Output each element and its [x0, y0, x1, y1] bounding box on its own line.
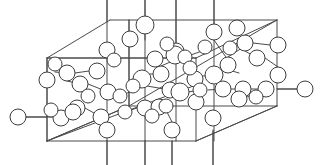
atom-circle	[136, 16, 154, 34]
atom-circle	[39, 72, 55, 88]
atom-circle	[113, 89, 127, 103]
atom-circle	[270, 67, 286, 83]
atom-circle	[107, 53, 121, 67]
atom-circle	[159, 99, 173, 113]
atom-circle	[81, 89, 95, 103]
atom-circle	[122, 31, 138, 47]
atom-circle	[48, 57, 62, 71]
atom-circle	[249, 90, 263, 104]
atom-circle	[126, 79, 140, 93]
atom-circle	[237, 35, 253, 51]
atom-circle	[147, 51, 163, 67]
atom-circle	[89, 63, 105, 79]
atom-circle	[249, 50, 265, 66]
atom-bond	[265, 58, 278, 67]
atom-circle	[160, 37, 174, 51]
atom-circle	[297, 81, 313, 97]
atom-circle	[198, 40, 212, 54]
atom-circle	[223, 41, 237, 55]
atom-bonds	[26, 0, 297, 165]
atom-circle	[118, 105, 132, 119]
atom-circle	[193, 83, 207, 97]
atom-circle	[10, 109, 26, 125]
atom-circle	[65, 104, 81, 120]
atom-nodes	[10, 16, 313, 138]
atom-circle	[215, 81, 231, 97]
lattice-figure	[0, 0, 323, 165]
atom-circle	[145, 109, 159, 123]
atom-circle	[206, 24, 222, 40]
atom-bond	[75, 71, 89, 73]
atom-circle	[205, 110, 221, 126]
lattice-diagram-canvas	[0, 0, 323, 165]
atom-circle	[164, 122, 180, 138]
atom-circle	[99, 122, 115, 138]
atom-circle	[171, 83, 189, 101]
atom-circle	[183, 61, 197, 75]
atom-bond	[253, 43, 270, 45]
atom-circle	[44, 103, 58, 117]
atom-circle	[229, 20, 245, 36]
atom-circle	[231, 91, 247, 107]
atom-circle	[153, 66, 169, 82]
atom-circle	[270, 37, 286, 53]
